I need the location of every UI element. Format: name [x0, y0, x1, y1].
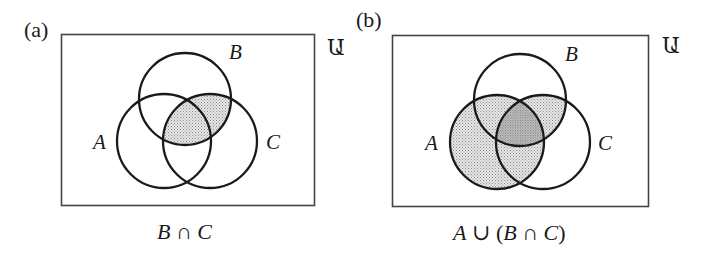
label-b: B [229, 40, 242, 64]
panel-a: (a) Ա B A C B ∩ C [24, 17, 345, 244]
label-b: B [565, 42, 578, 66]
label-c: C [598, 131, 613, 155]
panel-a-tag: (a) [24, 17, 48, 42]
universe-symbol: Ա [327, 35, 345, 60]
panel-b: (b) Ա B A C A ∪ (B ∩ C) [356, 7, 680, 245]
panel-b-tag: (b) [356, 7, 382, 32]
universe-symbol: Ա [662, 33, 680, 58]
caption-b: A ∪ (B ∩ C) [451, 220, 566, 245]
label-a: A [91, 130, 106, 154]
label-c: C [266, 130, 281, 154]
caption-a: B ∩ C [157, 219, 212, 244]
venn-figure: (a) Ա B A C B ∩ C (b) Ա B A C A ∪ (B ∩ [0, 0, 715, 255]
label-a: A [423, 131, 438, 155]
